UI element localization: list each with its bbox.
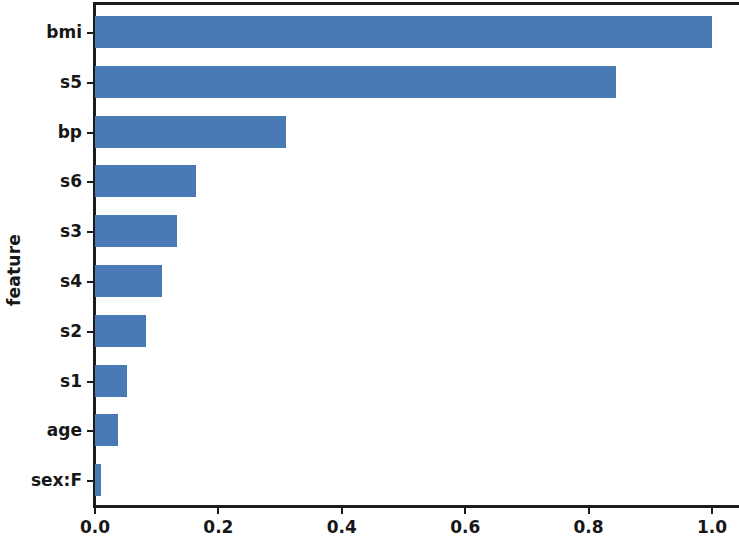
y-tick-label-sex-f: sex:F [31,470,82,490]
y-tick-label-s6: s6 [60,171,82,191]
y-tick-mark [87,281,94,283]
x-tick-label-0.8: 0.8 [574,517,604,537]
bar-s2 [95,315,146,347]
y-tick-mark [87,480,94,482]
y-tick-mark [87,32,94,34]
bar-s6 [95,165,196,197]
bar-s4 [95,265,162,297]
bar-s5 [95,66,616,98]
y-tick-mark [87,430,94,432]
y-tick-mark [87,181,94,183]
y-tick-mark [87,82,94,84]
y-axis-title: feature [0,0,28,540]
y-tick-mark [87,231,94,233]
y-axis-title-label: feature [4,234,24,306]
x-tick-label-0.2: 0.2 [203,517,233,537]
x-tick-mark [217,506,219,514]
y-tick-label-s1: s1 [60,371,82,391]
axis-spine-bottom [93,505,739,508]
y-tick-label-s3: s3 [60,221,82,241]
y-tick-label-s2: s2 [60,321,82,341]
x-tick-mark [464,506,466,514]
bar-bp [95,116,286,148]
x-tick-mark [94,506,96,514]
bar-s3 [95,215,177,247]
x-tick-label-1.0: 1.0 [697,517,727,537]
y-tick-label-s4: s4 [60,271,82,291]
x-tick-mark [588,506,590,514]
bar-bmi [95,16,712,48]
y-tick-mark [87,132,94,134]
bar-sex-f [95,464,101,496]
y-tick-label-bp: bp [58,122,82,142]
y-tick-label-bmi: bmi [46,22,82,42]
y-tick-label-age: age [47,420,82,440]
y-tick-label-s5: s5 [60,72,82,92]
bar-chart-figure: feature bmis5bps6s3s4s2s1agesex:F 0.00.2… [0,0,739,540]
x-tick-label-0.6: 0.6 [450,517,480,537]
y-tick-mark [87,331,94,333]
x-tick-label-0.0: 0.0 [80,517,110,537]
bar-age [95,414,118,446]
x-tick-mark [711,506,713,514]
x-tick-mark [341,506,343,514]
y-tick-mark [87,381,94,383]
axis-spine-top [93,2,739,5]
plot-area: bmis5bps6s3s4s2s1agesex:F 0.00.20.40.60.… [95,7,739,505]
bar-s1 [95,365,127,397]
x-tick-label-0.4: 0.4 [327,517,357,537]
